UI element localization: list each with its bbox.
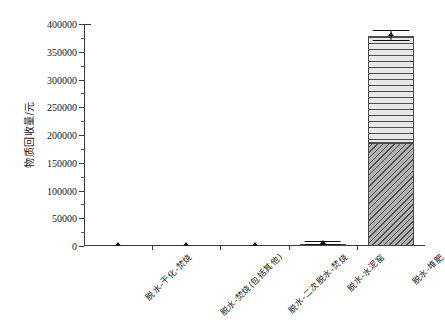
x-tick [220, 246, 221, 250]
y-tick-label: 0 [72, 241, 77, 252]
x-tick [289, 246, 290, 250]
error-bar-cap [372, 40, 409, 41]
data-point-marker [252, 242, 258, 246]
plot-area: 0500001000001500002000002500003000003500… [84, 24, 425, 246]
y-tick-major [79, 163, 84, 164]
x-tick [152, 246, 153, 250]
y-tick-minor [81, 66, 84, 67]
error-bar [368, 24, 414, 246]
y-tick-label: 200000 [47, 130, 77, 141]
error-bar-cap [372, 30, 409, 31]
error-bar-cap [304, 244, 341, 245]
y-tick-major [79, 191, 84, 192]
y-tick-minor [81, 149, 84, 150]
data-point-marker [388, 32, 394, 36]
y-tick-major [79, 246, 84, 247]
x-tick-label: 脱水-干化-焚烧 [142, 250, 194, 302]
data-point-marker [183, 242, 189, 246]
x-tick-label: 脱水-堆肥 [409, 250, 445, 287]
y-tick-label: 250000 [47, 102, 77, 113]
y-tick-label: 350000 [47, 46, 77, 57]
y-tick-label: 50000 [52, 213, 77, 224]
y-axis-label: 物质回收量/元 [21, 101, 36, 168]
data-point-marker [320, 240, 326, 244]
y-tick-major [79, 135, 84, 136]
y-tick-minor [81, 38, 84, 39]
error-bar [232, 24, 278, 246]
y-tick-label: 300000 [47, 74, 77, 85]
y-tick-minor [81, 204, 84, 205]
y-tick-minor [81, 121, 84, 122]
y-tick-minor [81, 177, 84, 178]
y-axis-label-container: 物质回收量/元 [14, 0, 42, 268]
x-tick [357, 246, 358, 250]
x-tick-label: 脱水-水泥窑 [343, 250, 386, 293]
data-point-marker [115, 242, 121, 246]
y-tick-major [79, 24, 84, 25]
error-bar [163, 24, 209, 246]
error-bar [95, 24, 141, 246]
y-tick-major [79, 52, 84, 53]
y-tick-minor [81, 93, 84, 94]
y-tick-major [79, 107, 84, 108]
y-tick-minor [81, 232, 84, 233]
y-tick-label: 400000 [47, 19, 77, 30]
x-tick-label: 脱水-焚烧(包括其他) [217, 250, 285, 318]
y-axis-spine [84, 24, 85, 246]
y-tick-label: 150000 [47, 157, 77, 168]
error-bar [300, 24, 346, 246]
y-tick-major [79, 80, 84, 81]
y-tick-major [79, 218, 84, 219]
top-left-frame-stub [84, 24, 91, 25]
x-tick-label: 脱水-二次脱水-焚烧 [284, 250, 349, 315]
y-tick-label: 100000 [47, 185, 77, 196]
